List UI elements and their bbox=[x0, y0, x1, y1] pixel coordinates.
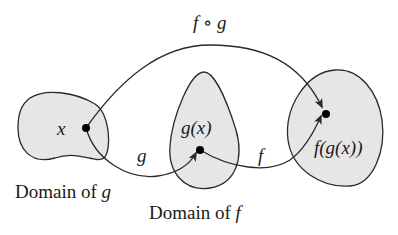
function-composition-diagram: f ∘ g x g(x) f(g(x)) g f Domain of g Dom… bbox=[0, 0, 398, 235]
domain-g-caption: Domain of g bbox=[15, 181, 111, 202]
fgx-label: f(g(x)) bbox=[314, 137, 363, 159]
g-arrow-label: g bbox=[137, 145, 147, 166]
range-region bbox=[288, 70, 383, 186]
point-gx bbox=[196, 146, 204, 154]
domain-f-caption-prefix: Domain of bbox=[149, 202, 236, 223]
x-label: x bbox=[56, 118, 66, 139]
composition-label: f ∘ g bbox=[193, 12, 227, 33]
f-arrow-label: f bbox=[258, 145, 266, 166]
domain-g-caption-var: g bbox=[102, 181, 112, 202]
point-x bbox=[82, 124, 90, 132]
domain-g-caption-prefix: Domain of bbox=[15, 181, 102, 202]
gx-label: g(x) bbox=[181, 117, 212, 139]
domain-f-caption: Domain of f bbox=[149, 202, 244, 223]
point-fgx bbox=[322, 110, 330, 118]
domain-f-caption-var: f bbox=[236, 202, 244, 223]
